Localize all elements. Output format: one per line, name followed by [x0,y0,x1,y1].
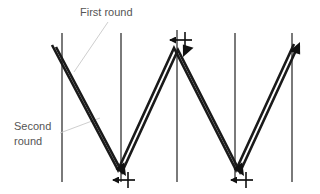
zigzag-round-diagram: First round Second round [0,0,320,194]
path-arrowheads [115,40,306,179]
zigzag-paths [52,44,298,172]
annotation-labels: First round Second round [14,6,133,147]
leader-lines [60,22,108,133]
label-second-round-line2: round [14,135,42,147]
leader-first-round [74,22,108,72]
label-second-round-line1: Second [14,120,51,132]
label-first-round: First round [80,6,133,18]
diagram-canvas: First round Second round [0,0,320,194]
